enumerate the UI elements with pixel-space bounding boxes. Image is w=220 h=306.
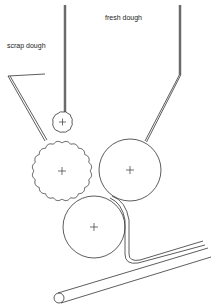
small-gear-roller xyxy=(53,112,73,133)
bottom-smooth-roller xyxy=(63,196,125,258)
conveyor-belt xyxy=(54,248,211,303)
dough-sheeter-diagram: scrap dough fresh dough xyxy=(0,0,220,306)
large-gear-roller xyxy=(32,141,91,200)
fresh-chute xyxy=(145,5,181,142)
scrap-chute xyxy=(8,74,47,141)
right-smooth-roller xyxy=(99,139,161,201)
feed-rod xyxy=(64,5,65,112)
